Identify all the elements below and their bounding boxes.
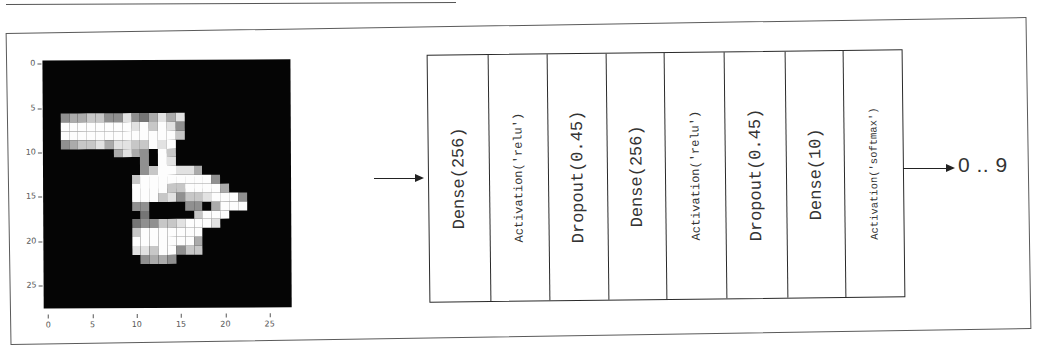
y-axis-ticks: 0510152025: [0, 0, 299, 1]
image-pixel: [238, 245, 247, 254]
image-pixel: [132, 193, 141, 202]
image-pixel: [273, 130, 282, 139]
image-pixel: [52, 105, 61, 114]
image-pixel: [78, 149, 87, 158]
image-pixel: [69, 140, 78, 149]
image-pixel: [141, 281, 150, 290]
image-pixel: [264, 148, 273, 157]
image-pixel: [167, 78, 176, 87]
image-pixel: [51, 96, 60, 105]
image-pixel: [220, 175, 229, 184]
image-pixel: [79, 255, 88, 264]
image-pixel: [97, 264, 106, 273]
image-pixel: [167, 237, 176, 246]
image-pixel: [70, 220, 79, 229]
image-pixel: [194, 184, 203, 193]
image-pixel: [96, 131, 105, 140]
image-pixel: [256, 281, 265, 290]
image-pixel: [265, 210, 274, 219]
image-pixel: [203, 219, 212, 228]
image-pixel: [43, 193, 52, 202]
image-pixel: [238, 263, 247, 272]
image-pixel: [149, 60, 158, 69]
image-pixel: [282, 59, 291, 68]
image-pixel: [247, 237, 256, 246]
image-pixel: [42, 61, 51, 70]
image-pixel: [97, 282, 106, 291]
layer-activation-softmax: Activation('softmax'): [843, 50, 905, 297]
image-pixel: [185, 157, 194, 166]
image-pixel: [184, 113, 193, 122]
image-pixel: [87, 149, 96, 158]
image-pixel: [105, 166, 114, 175]
image-pixel: [106, 273, 115, 282]
image-pixel: [273, 112, 282, 121]
layer-label: Activation('relu'): [688, 111, 703, 241]
image-pixel: [158, 148, 167, 157]
image-pixel: [105, 202, 114, 211]
image-pixel: [185, 228, 194, 237]
image-pixel: [239, 299, 248, 308]
image-pixel: [150, 264, 159, 273]
image-pixel: [158, 184, 167, 193]
image-pixel: [202, 148, 211, 157]
image-pixel: [256, 237, 265, 246]
image-pixel: [282, 157, 291, 166]
image-pixel: [78, 167, 87, 176]
image-pixel: [176, 184, 185, 193]
image-pixel: [238, 201, 247, 210]
image-pixel: [176, 255, 185, 264]
image-pixel: [141, 290, 150, 299]
image-pixel: [167, 95, 176, 104]
image-pixel: [264, 130, 273, 139]
image-pixel: [105, 122, 114, 131]
image-pixel: [247, 192, 256, 201]
image-pixel: [238, 192, 247, 201]
image-pixel: [123, 255, 132, 264]
y-tick-label: 5: [18, 103, 36, 112]
image-pixel: [212, 299, 221, 308]
image-pixel: [202, 157, 211, 166]
x-tick-label: 0: [38, 320, 58, 329]
image-pixel: [264, 121, 273, 130]
image-pixel: [70, 176, 79, 185]
image-pixel: [44, 273, 53, 282]
image-pixel: [158, 219, 167, 228]
image-pixel: [256, 290, 265, 299]
image-pixel: [140, 78, 149, 87]
image-pixel: [255, 95, 264, 104]
image-pixel: [282, 219, 291, 228]
image-pixel: [247, 245, 256, 254]
y-tick-label: 10: [18, 148, 36, 157]
image-pixel: [87, 193, 96, 202]
image-pixel: [274, 281, 283, 290]
image-pixel: [140, 184, 149, 193]
image-pixel: [123, 149, 132, 158]
image-pixel: [114, 273, 123, 282]
image-pixel: [114, 255, 123, 264]
image-pixel: [96, 158, 105, 167]
image-pixel: [113, 60, 122, 69]
y-tick-label: 15: [18, 192, 36, 201]
image-pixel: [256, 219, 265, 228]
image-pixel: [229, 192, 238, 201]
image-pixel: [256, 201, 265, 210]
image-pixel: [53, 300, 62, 309]
image-pixel: [132, 299, 141, 308]
image-pixel: [88, 255, 97, 264]
image-pixel: [141, 273, 150, 282]
image-pixel: [176, 210, 185, 219]
image-pixel: [220, 122, 229, 131]
image-pixel: [52, 202, 61, 211]
image-pixel: [70, 193, 79, 202]
image-pixel: [202, 139, 211, 148]
image-pixel: [168, 281, 177, 290]
image-pixel: [194, 272, 203, 281]
image-pixel: [140, 95, 149, 104]
image-pixel: [87, 105, 96, 114]
image-pixel: [122, 78, 131, 87]
image-pixel: [246, 104, 255, 113]
image-pixel: [229, 104, 238, 113]
image-pixel: [88, 291, 97, 300]
image-pixel: [175, 69, 184, 78]
